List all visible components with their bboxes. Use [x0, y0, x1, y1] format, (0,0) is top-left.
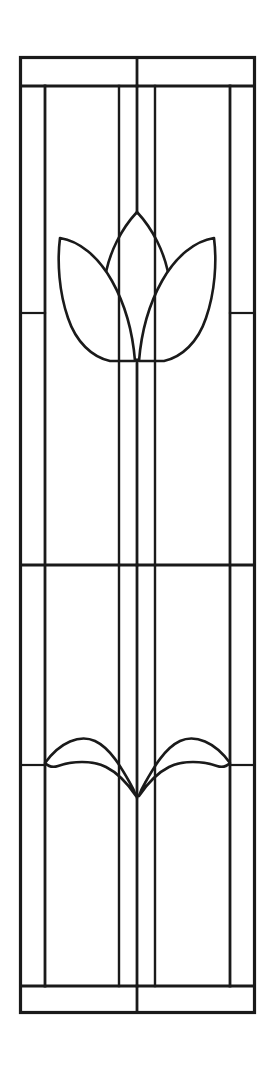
drawing-canvas: [0, 0, 274, 1072]
stained-glass-pattern: [0, 0, 274, 1072]
